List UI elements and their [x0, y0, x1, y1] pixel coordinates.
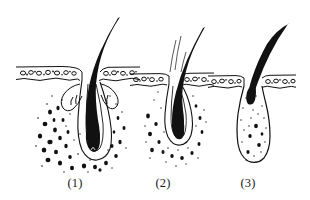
figure-illustration [0, 0, 310, 200]
figure-background [0, 0, 310, 200]
hair-follicle-figure: (1) (2) (3) [0, 0, 310, 200]
